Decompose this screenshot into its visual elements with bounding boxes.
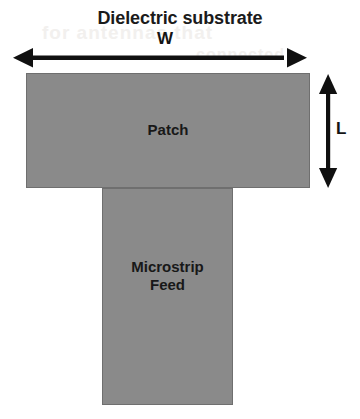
microstrip-feed-rectangle [102, 188, 233, 405]
patch-label: Patch [26, 121, 310, 138]
figure-canvas: for antennas that connected Dielectric s… [0, 0, 360, 419]
microstrip-feed-label-line1: Microstrip [131, 258, 204, 275]
length-dimension-label: L [336, 119, 346, 139]
dielectric-substrate-label: Dielectric substrate [0, 8, 360, 29]
microstrip-feed-label: MicrostripFeed [102, 258, 233, 294]
length-arrow-icon [319, 74, 337, 188]
width-arrow-icon [13, 48, 307, 68]
microstrip-feed-label-line2: Feed [150, 276, 185, 293]
width-dimension-label: W [0, 29, 330, 49]
